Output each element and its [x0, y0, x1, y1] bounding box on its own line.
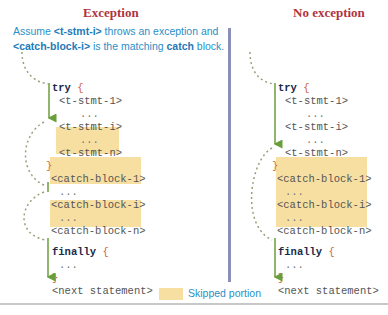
bottom-rule	[0, 303, 388, 305]
control-flow-arrows	[0, 0, 388, 315]
column-divider	[228, 28, 231, 282]
legend-label-skipped: Skipped portion	[188, 287, 261, 299]
legend-swatch-skipped	[159, 288, 183, 300]
